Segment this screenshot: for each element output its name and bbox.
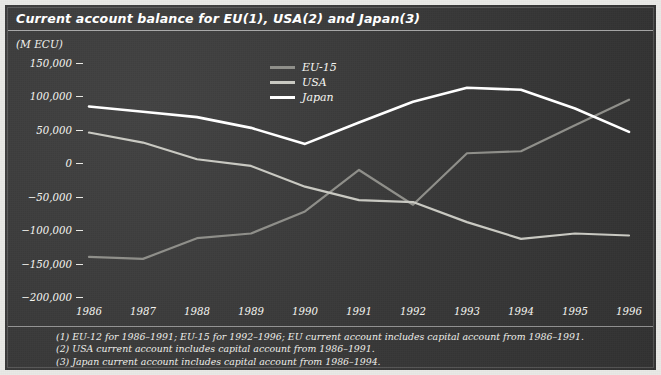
legend-swatch-line-icon (270, 66, 295, 69)
footnote: (2) USA current account includes capital… (56, 343, 646, 355)
legend-item: Japan (270, 90, 337, 105)
footnotes: (1) EU-12 for 1986–1991; EU-15 for 1992–… (56, 331, 646, 368)
x-axis-tick-label: 1993 (454, 306, 480, 317)
y-axis-tick-mark (76, 297, 83, 298)
legend-label: EU-15 (302, 61, 337, 74)
legend-label: Japan (302, 91, 334, 104)
x-axis-tick-label: 1992 (400, 306, 426, 317)
y-axis-tick-label: 50,000 (8, 124, 72, 135)
y-axis-tick-mark (76, 264, 83, 265)
chart-legend: EU-15USAJapan (270, 60, 337, 105)
x-axis-tick-label: 1996 (616, 306, 642, 317)
y-axis-tick-mark (76, 230, 83, 231)
chart-figure: Current account balance for EU(1), USA(2… (0, 0, 661, 375)
y-axis-tick-mark (76, 163, 83, 164)
y-axis-tick-label: 100,000 (8, 91, 72, 102)
x-axis-tick-label: 1988 (184, 306, 210, 317)
y-axis-tick-mark (76, 197, 83, 198)
legend-swatch-line-icon (270, 96, 295, 99)
x-axis-tick-label: 1994 (508, 306, 534, 317)
legend-item: USA (270, 75, 337, 90)
y-axis-tick-label: 0 (8, 158, 72, 169)
x-axis-tick-label: 1991 (346, 306, 372, 317)
plot-area (0, 0, 661, 375)
y-axis-tick-label: −50,000 (8, 191, 72, 202)
y-axis-tick-label: −200,000 (8, 292, 72, 303)
y-axis-tick-label: −150,000 (8, 258, 72, 269)
footnote-divider (8, 326, 653, 327)
y-axis-tick-mark (76, 130, 83, 131)
x-axis-tick-label: 1995 (562, 306, 588, 317)
y-axis-tick-label: 150,000 (8, 58, 72, 69)
legend-item: EU-15 (270, 60, 337, 75)
legend-label: USA (302, 76, 327, 89)
legend-swatch-line-icon (270, 81, 295, 84)
series-line-japan (89, 88, 629, 144)
x-axis-tick-label: 1990 (292, 306, 318, 317)
series-lines (0, 0, 661, 375)
x-axis-tick-label: 1989 (238, 306, 264, 317)
x-axis-tick-label: 1987 (130, 306, 156, 317)
y-axis-tick-mark (76, 96, 83, 97)
series-line-usa (89, 133, 629, 239)
y-axis-tick-label: −100,000 (8, 225, 72, 236)
y-axis-tick-mark (76, 63, 83, 64)
footnote: (1) EU-12 for 1986–1991; EU-15 for 1992–… (56, 331, 646, 343)
x-axis-tick-label: 1986 (76, 306, 102, 317)
footnote: (3) Japan current account includes capit… (56, 356, 646, 368)
